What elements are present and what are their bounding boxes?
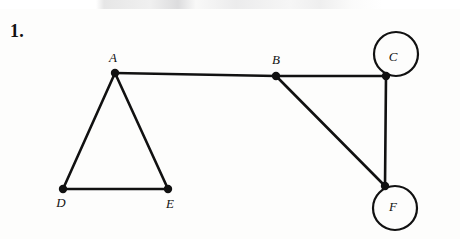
vertex-label-e: E [165, 196, 174, 211]
edge-c-f [385, 76, 386, 186]
vertex-d [59, 185, 67, 193]
graph-diagram: ABCDEF [0, 0, 460, 239]
vertex-e [164, 185, 172, 193]
vertex-a [111, 69, 119, 77]
edges-group [63, 73, 386, 189]
edge-b-f [276, 76, 385, 186]
vertex-label-f: F [388, 199, 398, 214]
vertex-label-a: A [108, 50, 117, 65]
vertex-c [382, 72, 390, 80]
edge-a-d [63, 73, 115, 189]
vertex-label-b: B [272, 52, 280, 67]
vertex-f [381, 182, 389, 190]
vertex-label-d: D [55, 195, 66, 210]
figure-page: 1. ABCDEF [0, 0, 460, 239]
edge-a-e [115, 73, 168, 189]
vertex-label-c: C [389, 49, 398, 64]
vertex-b [272, 72, 280, 80]
edge-a-b [115, 73, 276, 76]
